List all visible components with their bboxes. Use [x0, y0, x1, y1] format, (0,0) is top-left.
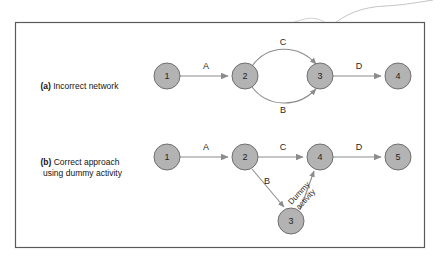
node-b-2-label: 2 [242, 152, 247, 162]
figure-frame [16, 23, 425, 248]
caption-a-line-1: Incorrect network [53, 81, 118, 91]
node-a-3-label: 3 [317, 71, 322, 81]
node-a-1-label: 1 [164, 71, 169, 81]
edge-b-C-label: C [280, 142, 287, 152]
edge-a-B-label: B [280, 105, 286, 115]
caption-panel-a: (a) Incorrect network [31, 70, 118, 103]
node-a-4-label: 4 [395, 71, 400, 81]
edge-a-D-label: D [356, 61, 363, 71]
edge-b-D-label: D [356, 142, 363, 152]
network-diagram-svg: 1 2 3 4 A C B D 1 [0, 0, 441, 264]
node-b-4-label: 4 [317, 152, 322, 162]
edge-b-B-label: B [264, 176, 270, 186]
node-a-2-label: 2 [242, 71, 247, 81]
edge-b-A-label: A [203, 142, 209, 152]
edge-a-A-label: A [203, 61, 209, 71]
node-b-3-label: 3 [288, 216, 293, 226]
caption-panel-b: (b) Correct approachusing dummy activity [31, 146, 122, 201]
node-b-5-label: 5 [395, 152, 400, 162]
caption-b-tag: (b) [40, 157, 51, 167]
edge-a-C-label: C [280, 37, 287, 47]
caption-a-tag: (a) [40, 81, 50, 91]
caption-b-line-2: using dummy activity [31, 168, 122, 179]
caption-b-line-1: Correct approach [54, 157, 120, 167]
figure-container: 1 2 3 4 A C B D 1 [0, 0, 441, 264]
node-b-1-label: 1 [164, 152, 169, 162]
